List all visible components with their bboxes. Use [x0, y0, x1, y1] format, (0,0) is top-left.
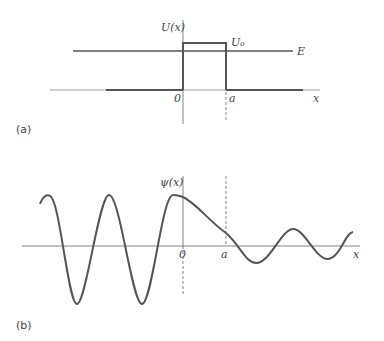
y-axis-label: U(x) — [161, 21, 185, 34]
figure-canvas: U(x) U₀ E 0 a x (a) ψ(x) 0 a x (b) — [0, 0, 384, 341]
panel-label-b: (b) — [16, 319, 32, 332]
panel-b: ψ(x) 0 a x (b) — [16, 176, 360, 332]
potential-barrier — [183, 43, 226, 90]
width-label: a — [221, 248, 228, 261]
width-label: a — [229, 92, 236, 105]
wavefunction-curve — [40, 195, 353, 304]
panel-a: U(x) U₀ E 0 a x (a) — [16, 20, 320, 136]
panel-label-a: (a) — [16, 123, 31, 136]
origin-label: 0 — [179, 248, 186, 261]
barrier-height-label: U₀ — [231, 36, 245, 49]
tunneling-diagram: U(x) U₀ E 0 a x (a) ψ(x) 0 a x (b) — [0, 0, 384, 341]
origin-label: 0 — [174, 92, 181, 105]
x-axis-label: x — [313, 92, 320, 105]
y-axis-label: ψ(x) — [160, 176, 183, 189]
x-axis-label: x — [353, 248, 360, 261]
energy-label: E — [296, 45, 305, 58]
